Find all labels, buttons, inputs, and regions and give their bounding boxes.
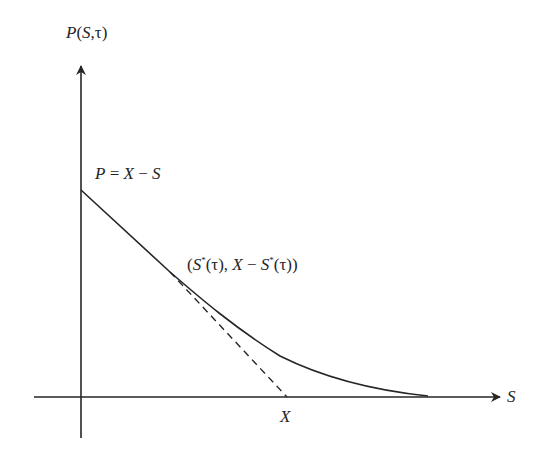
put-option-diagram [0,0,544,460]
payoff-label: P = X − S [95,165,160,182]
s-axis-label: S [507,388,516,405]
strike-label: X [280,408,290,425]
y-axis-label: P(S,τ) [66,24,107,41]
put-value-curve [81,190,428,396]
payoff-dashed-line [170,272,287,397]
tangent-point-label: (S*(τ), X − S*(τ)) [187,256,298,273]
